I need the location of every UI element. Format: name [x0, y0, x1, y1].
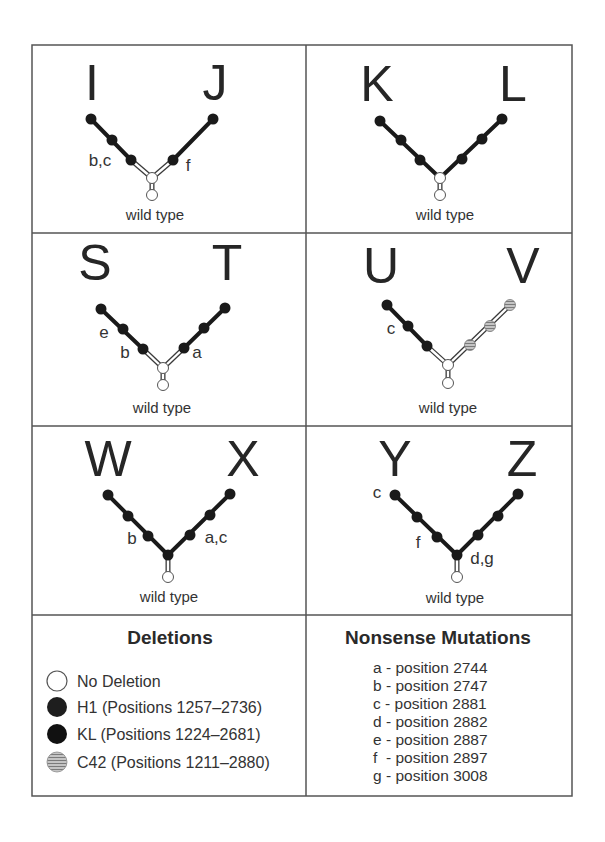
mutation-label: c — [387, 319, 396, 338]
wild-type-label: wild type — [425, 589, 484, 606]
mutation-item-e: e - position 2887 — [373, 731, 488, 748]
panel-wx: W X b a,c wild type — [84, 431, 259, 605]
strain-label-z: Z — [507, 431, 538, 487]
mutation-label: b — [127, 529, 136, 548]
strain-label-s: S — [78, 235, 111, 291]
wild-type-label: wild type — [415, 206, 474, 223]
deletions-legend: Deletions No Deletion H1 (Positions 1257… — [47, 627, 270, 772]
legend-item-h1: H1 (Positions 1257–2736) — [77, 699, 262, 716]
legend-item-no-deletion: No Deletion — [77, 673, 161, 690]
wild-type-label: wild type — [139, 588, 198, 605]
panel-kl: K L wild type — [360, 56, 527, 223]
strain-label-x: X — [226, 431, 259, 487]
strain-label-k: K — [360, 56, 393, 112]
mutation-label: f — [416, 533, 421, 552]
strain-label-w: W — [84, 431, 132, 487]
mutation-item-b: b - position 2747 — [373, 677, 488, 694]
panel-st: S T e b a wild type — [78, 235, 242, 416]
mutation-item-c: c - position 2881 — [373, 695, 487, 712]
strain-label-y: Y — [378, 431, 411, 487]
mutation-item-d: d - position 2882 — [373, 713, 488, 730]
c42-deletion-icon — [47, 752, 67, 772]
no-deletion-icon — [47, 671, 67, 691]
mutation-item-f: f - position 2897 — [373, 749, 488, 766]
wild-type-label: wild type — [418, 399, 477, 416]
panel-ij: I J b,c f wild type — [85, 55, 227, 223]
h1-deletion-icon — [47, 697, 67, 717]
mutation-label: e — [99, 323, 108, 342]
legend-item-kl: KL (Positions 1224–2681) — [77, 726, 261, 743]
strain-label-u: U — [363, 238, 399, 294]
legend-item-c42: C42 (Positions 1211–2880) — [77, 754, 270, 771]
mutation-label: b — [120, 343, 129, 362]
node-black — [390, 489, 524, 561]
deletions-title: Deletions — [127, 627, 213, 648]
node-black — [103, 489, 236, 561]
strain-label-j: J — [203, 55, 228, 111]
node-white — [163, 572, 174, 583]
node-black — [96, 303, 231, 355]
mutation-label: d,g — [470, 549, 494, 568]
panel-uv: U V c wild type — [363, 238, 540, 416]
node-white — [452, 572, 463, 583]
mutation-label: f — [186, 156, 191, 175]
strain-label-i: I — [85, 55, 99, 111]
kl-deletion-icon — [47, 724, 67, 744]
phylogeny-figure: I J b,c f wild type — [0, 0, 605, 842]
mutation-label: c — [373, 483, 382, 502]
strain-label-v: V — [506, 238, 540, 294]
mutation-label: a — [192, 343, 202, 362]
mutation-label: a,c — [205, 528, 228, 547]
node-hatched — [465, 300, 516, 351]
node-black — [375, 114, 508, 166]
wild-type-label: wild type — [132, 399, 191, 416]
mutation-item-g: g - position 3008 — [373, 767, 488, 784]
mutation-label: b,c — [89, 151, 112, 170]
nonsense-mutations-title: Nonsense Mutations — [345, 627, 531, 648]
strain-label-l: L — [499, 56, 527, 112]
strain-label-t: T — [212, 235, 243, 291]
nonsense-mutations-legend: Nonsense Mutations a - position 2744 b -… — [345, 627, 531, 784]
panel-yz: Y Z c f d,g wild type — [373, 431, 538, 606]
wild-type-label: wild type — [125, 206, 184, 223]
mutation-item-a: a - position 2744 — [373, 659, 488, 676]
